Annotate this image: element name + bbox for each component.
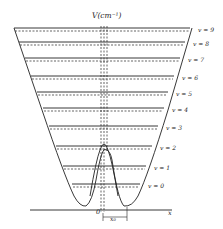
x-axis-label: x [168,209,172,217]
origin-label: 0 [96,208,100,216]
level-label: v = 1 [154,164,170,171]
x0-label: x₀ [110,215,116,222]
level-label: v = 9 [198,26,214,33]
level-label: v = 0 [148,182,164,189]
level-label: v = 4 [172,106,188,113]
level-label: v = 3 [166,124,182,131]
double-well-potential-diagram: v = 0v = 1v = 2v = 3v = 4v = 5v = 6v = 7… [0,0,223,229]
level-label: v = 6 [182,74,198,81]
y-axis-label: V(cm⁻¹) [92,11,122,20]
potential-curve [14,28,192,206]
vibrational-levels: v = 0v = 1v = 2v = 3v = 4v = 5v = 6v = 7… [14,26,214,189]
level-label: v = 8 [193,40,209,47]
level-label: v = 7 [188,56,204,63]
level-label: v = 5 [176,90,192,97]
level-label: v = 2 [160,144,176,151]
